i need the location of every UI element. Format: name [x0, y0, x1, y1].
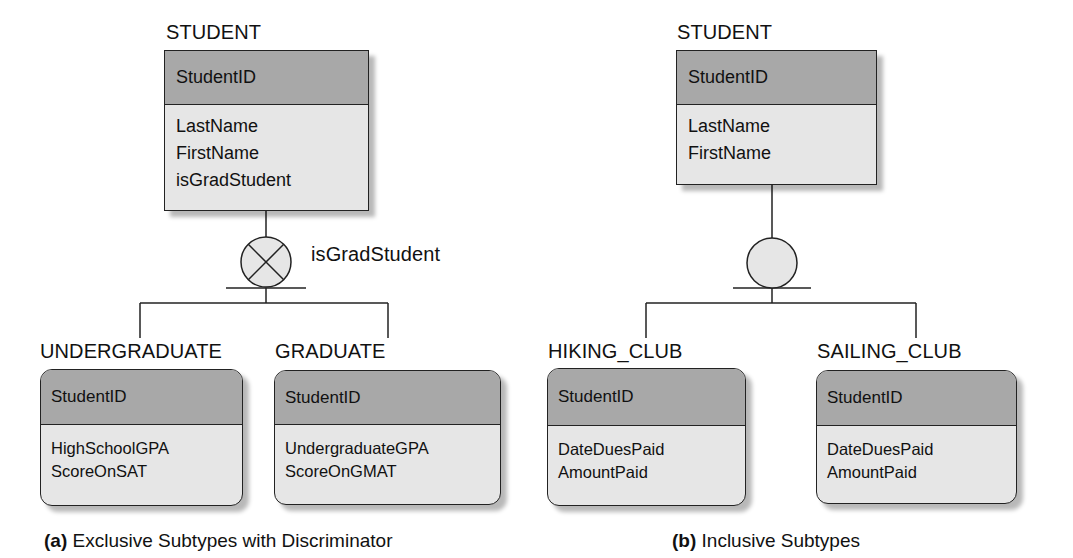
subtype-sailing-club-entity: StudentID DateDuesPaid AmountPaid — [816, 370, 1017, 504]
attribute: LastName — [176, 113, 368, 140]
caption-b-prefix: (b) — [672, 530, 696, 551]
attribute: isGradStudent — [176, 167, 368, 194]
attribute: AmountPaid — [827, 461, 1016, 484]
attribute: AmountPaid — [558, 461, 745, 484]
attribute: ScoreOnSAT — [51, 460, 242, 483]
attribute: FirstName — [688, 140, 876, 167]
attribute: DateDuesPaid — [558, 438, 745, 461]
supertype-b-entity: StudentID LastName FirstName — [676, 50, 877, 185]
discriminator-label: isGradStudent — [311, 244, 440, 264]
subtype-graduate-entity: StudentID UndergraduateGPA ScoreOnGMAT — [274, 370, 501, 505]
entity-identifier: StudentID — [275, 371, 500, 425]
supertype-a-entity: StudentID LastName FirstName isGradStude… — [164, 50, 369, 211]
entity-identifier: StudentID — [165, 51, 368, 105]
subtype-hiking-club-entity: StudentID DateDuesPaid AmountPaid — [547, 368, 746, 506]
entity-attributes: LastName FirstName isGradStudent — [165, 105, 368, 194]
caption-b: (b) Inclusive Subtypes — [672, 530, 860, 552]
entity-identifier: StudentID — [817, 371, 1016, 426]
attribute: HighSchoolGPA — [51, 437, 242, 460]
exclusive-category-icon — [241, 237, 291, 287]
subtype-hiking-club-name: HIKING_CLUB — [548, 341, 682, 361]
attribute: DateDuesPaid — [827, 438, 1016, 461]
caption-a-text: Exclusive Subtypes with Discriminator — [73, 530, 393, 551]
entity-identifier: StudentID — [41, 370, 242, 425]
subtype-sailing-club-name: SAILING_CLUB — [817, 341, 962, 361]
entity-attributes: UndergraduateGPA ScoreOnGMAT — [275, 425, 500, 483]
attribute: ScoreOnGMAT — [285, 460, 500, 483]
attribute: FirstName — [176, 140, 368, 167]
entity-attributes: HighSchoolGPA ScoreOnSAT — [41, 425, 242, 483]
entity-attributes: DateDuesPaid AmountPaid — [548, 426, 745, 484]
entity-attributes: LastName FirstName — [677, 105, 876, 167]
entity-attributes: DateDuesPaid AmountPaid — [817, 426, 1016, 484]
attribute: LastName — [688, 113, 876, 140]
supertype-b-name: STUDENT — [677, 22, 772, 42]
subtype-undergraduate-name: UNDERGRADUATE — [40, 341, 222, 361]
entity-identifier: StudentID — [548, 369, 745, 426]
supertype-a-name: STUDENT — [166, 22, 261, 42]
entity-identifier: StudentID — [677, 51, 876, 105]
inclusive-category-icon — [747, 238, 797, 288]
attribute: UndergraduateGPA — [285, 437, 500, 460]
caption-a: (a) Exclusive Subtypes with Discriminato… — [44, 530, 392, 552]
caption-b-text: Inclusive Subtypes — [702, 530, 860, 551]
caption-a-prefix: (a) — [44, 530, 67, 551]
subtype-undergraduate-entity: StudentID HighSchoolGPA ScoreOnSAT — [40, 369, 243, 506]
subtype-graduate-name: GRADUATE — [275, 341, 385, 361]
